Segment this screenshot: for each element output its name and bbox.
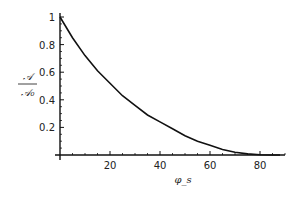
x-tick-label: 40 — [154, 160, 167, 171]
x-tick-label: 60 — [204, 160, 217, 171]
y-axis-label: 𝒜 𝒜₀ — [18, 71, 37, 98]
x-tick-label: 20 — [104, 160, 117, 171]
y-tick-label: 0.6 — [39, 67, 55, 78]
x-axis-label: φ_s — [174, 174, 191, 186]
y-tick-label: 1 — [49, 12, 55, 23]
y-tick-label: 0.8 — [39, 40, 55, 51]
x-tick-label: 80 — [254, 160, 267, 171]
y-label-denominator: 𝒜₀ — [21, 87, 34, 98]
y-label-numerator: 𝒜 — [23, 71, 36, 82]
chart: 20406080 0.20.40.60.81 𝒜 𝒜₀ φ_s — [0, 0, 302, 199]
y-tick-label: 0.4 — [39, 95, 55, 106]
y-tick-label: 0.2 — [39, 122, 55, 133]
axes — [55, 13, 280, 160]
data-line — [60, 17, 285, 155]
